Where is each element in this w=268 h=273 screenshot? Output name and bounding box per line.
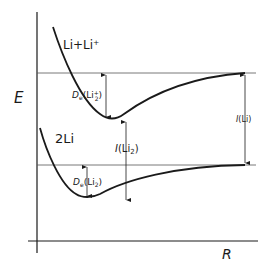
de-li2-body: (Li: [84, 177, 95, 187]
i-li2-label: I(Li2): [115, 143, 139, 156]
de-li2-label: De(Li2): [73, 177, 102, 188]
y-axis-label: E: [14, 89, 24, 107]
de-li2-close: ): [99, 177, 103, 187]
curve-label-li-li-plus: Li+Li⁺: [63, 38, 99, 52]
i-li-label: I(Li): [236, 115, 251, 124]
curve-label-2li: 2Li: [55, 131, 74, 146]
de-li2-plus-body: (Li: [83, 90, 94, 100]
potential-energy-diagram: E R Li+Li⁺ 2Li De(Li+2) De(Li2) I(Li2) I…: [0, 0, 268, 273]
de-li2-prefix: D: [73, 177, 80, 187]
i-li2-close: ): [135, 143, 139, 154]
curve-label-li-li-plus-text: Li+Li⁺: [63, 38, 99, 52]
x-axis-label: R: [222, 246, 232, 262]
i-li2-body: (Li: [118, 143, 130, 154]
de-li2-plus-prefix: D: [72, 90, 79, 100]
de-li2-plus-close: ): [99, 90, 103, 100]
i-li-body: (Li): [238, 115, 251, 124]
